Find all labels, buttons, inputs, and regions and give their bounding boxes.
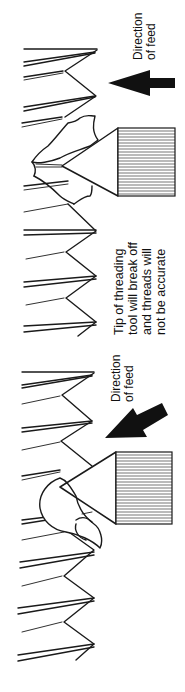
feed-label-top-line-1: Direction <box>132 13 145 60</box>
feed-arrow-angled-icon <box>105 403 168 438</box>
feed-direction-label-bottom: Direction of feed <box>110 355 137 402</box>
warning-annotation: Tip of threading tool will break off and… <box>112 242 168 335</box>
feed-label-top-line-2: of feed <box>145 13 158 60</box>
feed-direction-label-top: Direction of feed <box>132 13 159 60</box>
bottom-panel <box>18 372 172 661</box>
feed-arrow-straight-icon <box>108 70 175 96</box>
thread-profile-top <box>22 49 97 336</box>
annotation-line-2: tool will break off <box>126 242 140 335</box>
feed-label-bottom-line-1: Direction <box>110 355 123 402</box>
annotation-line-1: Tip of threading <box>112 242 126 335</box>
broken-tool-tip <box>32 116 98 205</box>
feed-label-bottom-line-2: of feed <box>123 355 136 402</box>
curled-chip <box>40 478 102 548</box>
annotation-line-3: and threads will <box>140 242 154 335</box>
annotation-line-4: not be accurate <box>154 242 168 335</box>
threading-feed-diagram <box>0 0 185 692</box>
